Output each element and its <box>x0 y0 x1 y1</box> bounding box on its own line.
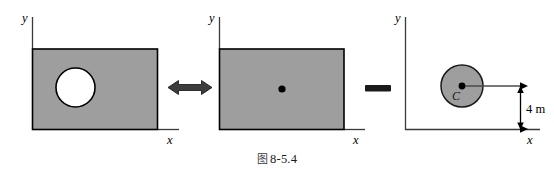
panel3-dimension-label: 4 m <box>526 102 545 116</box>
figure-caption-marker: 图 <box>257 150 268 166</box>
panel3-y-axis-label: y <box>393 11 401 25</box>
panel2-center-of-mass-dot <box>278 85 285 92</box>
panel-plate-with-hole: y x <box>20 11 179 147</box>
figure-container: y x y x y x <box>0 0 554 177</box>
panel-full-plate: y x <box>207 11 365 147</box>
minus-operator <box>365 85 391 92</box>
dimension-arrowhead-top <box>517 86 524 93</box>
panel2-x-axis-label: x <box>352 133 359 147</box>
panel1-y-axis-label: y <box>20 11 28 25</box>
panel1-hole <box>56 68 95 107</box>
figure-caption: 图8-5.4 <box>0 150 554 167</box>
panel1-x-axis-label: x <box>166 133 173 147</box>
dimension-arrowhead-bottom <box>517 123 524 130</box>
minus-bar-icon <box>365 85 391 92</box>
figure-caption-number: 8-5.4 <box>270 152 297 166</box>
panel3-x-axis-label: x <box>526 133 533 147</box>
panel2-y-axis-label: y <box>207 11 215 25</box>
equals-operator <box>168 81 212 95</box>
double-headed-arrow-icon <box>168 81 212 95</box>
panel3-centroid-label: C <box>452 89 461 103</box>
panel-removed-disk: y x C 4 m <box>393 11 545 147</box>
